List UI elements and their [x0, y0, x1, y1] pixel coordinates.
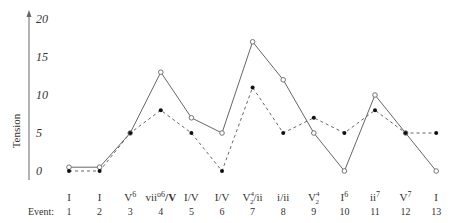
- data-series: [67, 40, 439, 174]
- y-tick-label: 0: [36, 164, 42, 178]
- open-marker: [281, 78, 286, 83]
- event-number: 4: [158, 206, 163, 217]
- x-axis-label: Event:: [28, 206, 54, 217]
- x-labels: Event:1I2I3V64viio6/V5I/V6I/V7V42/ii8i/i…: [28, 190, 441, 217]
- filled-marker: [434, 131, 438, 135]
- open-marker: [189, 116, 194, 121]
- chord-label: I/V: [215, 191, 230, 203]
- chord-label: I: [67, 191, 71, 203]
- chord-label: I: [98, 191, 102, 203]
- event-number: 13: [431, 206, 441, 217]
- event-number: 6: [220, 206, 225, 217]
- filled-marker: [312, 116, 316, 120]
- chord-label: V42: [308, 190, 320, 206]
- event-number: 11: [370, 206, 380, 217]
- filled-marker: [342, 131, 346, 135]
- chord-label: viio6/V: [145, 190, 176, 203]
- open-marker: [159, 70, 164, 75]
- chord-label: V7: [400, 190, 412, 203]
- y-tick-label: 10: [36, 88, 48, 102]
- open-marker: [434, 169, 439, 174]
- event-number: 7: [250, 206, 255, 217]
- chord-label: i/ii: [277, 191, 289, 203]
- event-number: 10: [339, 206, 349, 217]
- chord-label: I/V: [184, 191, 199, 203]
- y-axis: [27, 10, 32, 180]
- event-number: 12: [401, 206, 411, 217]
- y-tick-label: 20: [36, 12, 48, 26]
- filled-marker: [128, 131, 132, 135]
- dashed-line: [69, 87, 436, 171]
- open-marker: [97, 165, 102, 170]
- event-number: 2: [97, 206, 102, 217]
- y-axis-arrow-icon: [27, 10, 32, 17]
- chord-label: V6: [124, 190, 136, 203]
- event-number: 3: [128, 206, 133, 217]
- filled-marker: [67, 169, 71, 173]
- filled-marker: [251, 85, 255, 89]
- chord-label: I6: [341, 190, 349, 203]
- chord-label: I: [434, 191, 438, 203]
- y-tick-label: 15: [36, 50, 48, 64]
- solid-line: [69, 42, 436, 171]
- open-marker: [250, 40, 255, 45]
- filled-marker: [220, 169, 224, 173]
- filled-marker: [189, 131, 193, 135]
- y-axis-label: Tension: [10, 113, 22, 148]
- open-marker: [342, 169, 347, 174]
- open-marker: [373, 93, 378, 98]
- chord-label: ii7: [370, 190, 380, 203]
- event-number: 5: [189, 206, 194, 217]
- filled-marker: [98, 169, 102, 173]
- chord-label: V42/ii: [243, 190, 263, 206]
- event-number: 9: [311, 206, 316, 217]
- filled-marker: [159, 108, 163, 112]
- y-tick-label: 5: [36, 126, 42, 140]
- filled-marker: [404, 131, 408, 135]
- filled-marker: [373, 108, 377, 112]
- filled-marker: [281, 131, 285, 135]
- tension-chart: 05101520Tension Event:1I2I3V64viio6/V5I/…: [0, 0, 459, 223]
- event-number: 8: [281, 206, 286, 217]
- open-marker: [312, 131, 317, 136]
- event-number: 1: [67, 206, 72, 217]
- open-marker: [220, 131, 225, 136]
- open-marker: [67, 165, 72, 170]
